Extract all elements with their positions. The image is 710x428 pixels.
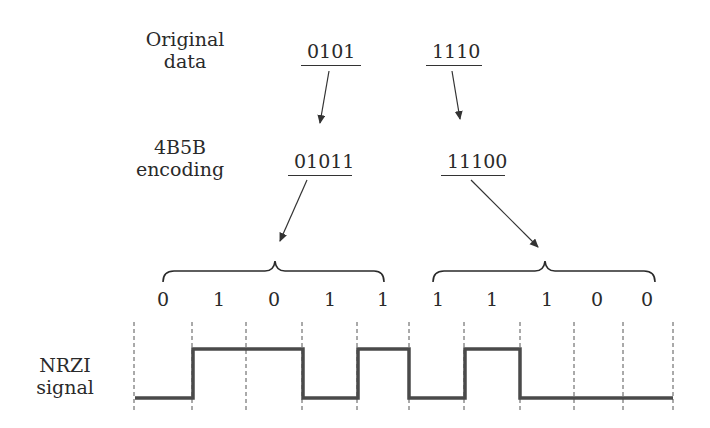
arrow-icon — [280, 71, 538, 247]
diagram-graphics — [0, 0, 710, 428]
nrzi-waveform — [135, 349, 673, 398]
brace-icon — [163, 261, 655, 282]
